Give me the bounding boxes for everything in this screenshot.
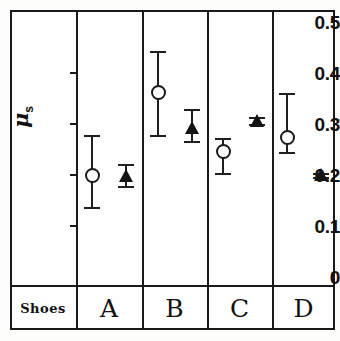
error-bar-cap-upper bbox=[118, 164, 134, 166]
y-tick-mark-1 bbox=[70, 72, 77, 74]
open-circle-marker bbox=[85, 168, 100, 183]
error-bar-cap-upper bbox=[184, 109, 200, 111]
error-bar-cap-upper bbox=[279, 93, 295, 95]
y-tick-label-3: 0.2 bbox=[282, 166, 340, 185]
filled-triangle-marker bbox=[185, 121, 199, 134]
y-tick-label-1: 0.4 bbox=[282, 64, 340, 83]
open-circle-marker bbox=[216, 144, 231, 159]
filled-triangle-marker bbox=[314, 168, 328, 181]
column-divider-axis bbox=[76, 10, 78, 330]
y-tick-label-4: 0.1 bbox=[282, 217, 340, 236]
filled-triangle-marker bbox=[119, 169, 133, 182]
error-bar-cap-lower bbox=[150, 135, 166, 137]
error-bar-cap-lower bbox=[118, 186, 134, 188]
error-bar-cap-upper bbox=[84, 135, 100, 137]
y-tick-mark-2 bbox=[70, 123, 77, 125]
error-bar-cap-lower bbox=[184, 141, 200, 143]
y-axis-title: μs bbox=[8, 106, 36, 128]
friction-coefficient-chart: 0.5 0.4 0.3 0.2 0.1 0 μs Shoes A B C D bbox=[0, 0, 340, 341]
error-bar-cap-upper bbox=[150, 51, 166, 53]
error-bar-cap-upper bbox=[215, 138, 231, 140]
y-axis-title-mu: μ bbox=[8, 113, 33, 128]
open-circle-marker bbox=[280, 130, 295, 145]
filled-triangle-marker bbox=[250, 114, 264, 127]
footer-category-a: A bbox=[76, 296, 142, 321]
column-divider-b-c bbox=[207, 10, 209, 330]
error-bar-cap-lower bbox=[215, 173, 231, 175]
column-divider-c-d bbox=[272, 10, 274, 330]
y-tick-label-0: 0.5 bbox=[282, 13, 340, 32]
error-bar-cap-lower bbox=[84, 207, 100, 209]
error-bar-cap-lower bbox=[279, 152, 295, 154]
y-axis-title-subscript: s bbox=[22, 106, 36, 113]
y-tick-mark-4 bbox=[70, 225, 77, 227]
open-circle-marker bbox=[151, 85, 166, 100]
column-divider-a-b bbox=[142, 10, 144, 330]
y-tick-mark-3 bbox=[70, 174, 77, 176]
footer-header-label: Shoes bbox=[10, 302, 76, 315]
footer-category-c: C bbox=[207, 296, 272, 321]
footer-category-b: B bbox=[142, 296, 207, 321]
y-tick-label-5: 0 bbox=[282, 268, 340, 287]
footer-category-d: D bbox=[272, 296, 335, 321]
